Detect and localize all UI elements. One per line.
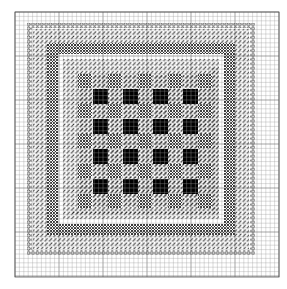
crosshatch-block bbox=[108, 194, 122, 208]
diagonal-lane bbox=[183, 194, 198, 208]
black-square bbox=[93, 179, 108, 194]
black-square bbox=[183, 179, 198, 194]
diagonal-lane bbox=[183, 134, 198, 148]
diagonal-lane bbox=[123, 134, 138, 148]
diagonal-lane bbox=[183, 104, 198, 118]
crosshatch-block bbox=[168, 194, 182, 208]
needlepoint-chart bbox=[0, 0, 287, 289]
diagonal-lane bbox=[198, 179, 212, 194]
diagonal-lane bbox=[183, 74, 198, 88]
crosshatch-block bbox=[138, 104, 152, 118]
diagonal-lane bbox=[108, 179, 122, 194]
crosshatch-block bbox=[108, 134, 122, 148]
crosshatch-block bbox=[198, 134, 212, 148]
crosshatch-block bbox=[198, 194, 212, 208]
diagonal-lane bbox=[153, 134, 168, 148]
crosshatch-block bbox=[108, 74, 122, 88]
diagonal-lane bbox=[153, 194, 168, 208]
crosshatch-block bbox=[138, 134, 152, 148]
diagonal-lane bbox=[153, 74, 168, 88]
diagonal-lane bbox=[93, 74, 108, 88]
grid-overlay-layer bbox=[15, 12, 279, 277]
crosshatch-block bbox=[138, 74, 152, 88]
crosshatch-block bbox=[168, 74, 182, 88]
crosshatch-block bbox=[198, 74, 212, 88]
diagonal-lane bbox=[138, 179, 152, 194]
diagonal-lane bbox=[168, 179, 182, 194]
crosshatch-block bbox=[138, 194, 152, 208]
diagonal-lane bbox=[153, 104, 168, 118]
diagonal-lane bbox=[123, 74, 138, 88]
crosshatch-block bbox=[198, 104, 212, 118]
diagonal-lane bbox=[93, 194, 108, 208]
crosshatch-block bbox=[108, 104, 122, 118]
checkerboard-center-layer bbox=[72, 68, 218, 214]
black-square bbox=[123, 179, 138, 194]
diagonal-lane bbox=[123, 104, 138, 118]
crosshatch-block bbox=[168, 134, 182, 148]
black-square bbox=[153, 179, 168, 194]
crosshatch-block bbox=[168, 104, 182, 118]
diagonal-lane bbox=[93, 134, 108, 148]
diagonal-lane bbox=[123, 194, 138, 208]
diagonal-lane bbox=[93, 104, 108, 118]
